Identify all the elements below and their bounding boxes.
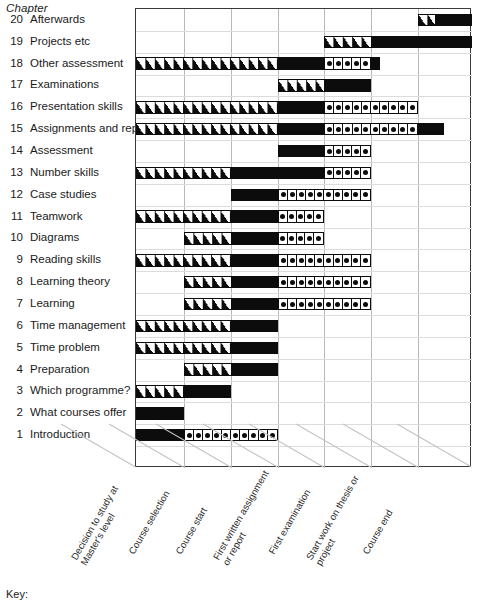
bar-segment-solid [371,57,380,70]
bar-dot [280,236,285,241]
bar-dot-cell [314,211,323,222]
bar-dot-cell [361,168,370,179]
bar-dot [326,258,331,263]
bar-dot [382,127,387,132]
bar-dot-cell [352,146,361,157]
bar-dot-cell [315,299,324,310]
bar-dot [354,170,359,175]
bar-dot [327,127,332,132]
plot-area [135,8,471,467]
bar-dot-cell [380,102,389,113]
bar-segment-hatch [136,320,231,333]
bar-dot [354,127,359,132]
bar-dot-cell [306,277,315,288]
bar-dot-cell [389,124,398,135]
bar-dot-cell [352,255,361,266]
axis-category-label: Course selection [126,489,171,556]
bar-dot [353,280,358,285]
chapter-number: 8 [6,275,23,287]
bar-dot [363,105,368,110]
chapter-row-label: 18Other assessment [6,52,123,74]
bar-dot-cell [361,58,370,69]
chapter-number: 13 [6,166,23,178]
chapter-row-label: 12Case studies [6,183,96,205]
bar-dot [299,192,304,197]
bar-dot [289,214,294,219]
bar-dot [308,302,313,307]
bar-dot [281,302,286,307]
bar-dot-cell [343,190,352,201]
row-separator [136,31,472,32]
bar-dot-cell [306,299,315,310]
bar-segment-dotted [278,232,324,245]
row-separator [136,249,472,250]
bar-dot [354,149,359,154]
bar-dot [353,302,358,307]
chapter-title: Reading skills [30,253,101,265]
bar-dot [205,433,210,438]
chapter-title: Preparation [30,363,89,375]
bar-dot-cell [361,255,370,266]
chapter-row-label: 5Time problem [6,336,100,358]
chapter-title: Time problem [30,341,100,353]
bar-dot-cell [389,102,398,113]
bar-dot [307,236,312,241]
gantt-chart: Chapter 20Afterwards19Projects etc18Othe… [0,0,478,609]
chapter-title: Learning theory [30,275,110,287]
bar-dot-cell [325,146,334,157]
bar-segment-hatch [136,254,231,267]
bar-dot [373,127,378,132]
bar-segment-hatch [184,363,231,376]
bar-segment-solid [231,189,278,202]
chapter-title: Afterwards [30,13,85,25]
bar-dot-cell [343,168,352,179]
bar-dot [345,105,350,110]
bar-dot-cell [306,190,315,201]
row-separator [136,337,472,338]
bar-dot [353,192,358,197]
bar-dot-cell [324,255,333,266]
bar-dot-cell [343,277,352,288]
chapter-title: Presentation skills [30,100,123,112]
axis-category-label: Course end [360,508,395,557]
bar-dot-cell [203,430,212,441]
bar-dot-cell [279,299,288,310]
chapter-row-label: 13Number skills [6,161,99,183]
bar-dot-cell [315,190,324,201]
key-label: Key: [6,588,28,600]
chapter-number: 16 [6,100,23,112]
bar-dot [363,149,368,154]
chapter-row-label: 11Teamwork [6,205,82,227]
row-separator [136,424,472,425]
bar-dot-cell [343,255,352,266]
bar-dot [187,433,192,438]
chapter-row-label: 20Afterwards [6,8,85,30]
bar-dot-cell [371,102,380,113]
bar-segment-hatch [184,276,231,289]
bar-dot [316,236,321,241]
bar-dot [336,170,341,175]
bar-segment-hatch [324,36,371,49]
bar-dot-cell [343,58,352,69]
bar-dot-cell [361,146,370,157]
bar-dot-cell [362,102,371,113]
bar-dot-cell [240,430,249,441]
bar-dot [410,105,415,110]
bar-dot-cell [408,102,417,113]
chapter-number: 18 [6,57,23,69]
bar-dot [363,127,368,132]
bar-segment-solid [231,210,278,223]
chapter-number: 11 [6,210,23,222]
bar-dot-cell [288,277,297,288]
bar-dot [336,105,341,110]
bar-segment-hatch [184,298,231,311]
bar-dot [317,302,322,307]
row-separator [136,53,472,54]
bar-dot-cell [352,299,361,310]
bar-dot [281,280,286,285]
bar-dot-cell [306,255,315,266]
chapter-row-label: 8Learning theory [6,270,110,292]
row-separator [136,402,472,403]
bar-dot [233,433,238,438]
chapter-row-label: 14Assessment [6,139,93,161]
